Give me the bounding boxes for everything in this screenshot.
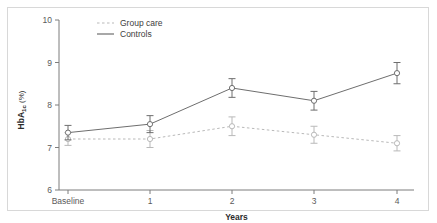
x-axis-title: Years [225, 212, 248, 222]
y-axis-title-main: HbA [16, 112, 26, 129]
y-axis-title-unit: (%) [17, 90, 26, 105]
legend-label: Controls [120, 29, 152, 39]
line-chart: 109876Baseline1234YearsHbA1c (%)Group ca… [0, 0, 437, 223]
series-group-care [65, 117, 401, 151]
y-tick-label: 8 [47, 100, 52, 110]
data-point-marker [229, 124, 234, 129]
x-tick-label: 3 [312, 196, 317, 206]
legend: Group careControls [97, 18, 163, 39]
y-axis-title: HbA1c (%) [16, 90, 27, 129]
data-point-marker [394, 71, 399, 76]
data-point-marker [311, 132, 316, 137]
data-point-marker [147, 136, 152, 141]
y-tick-label: 10 [43, 15, 53, 25]
data-point-marker [229, 85, 234, 90]
x-tick-label: Baseline [52, 196, 85, 206]
y-tick-label: 6 [47, 185, 52, 195]
y-axis-title-text: HbA1c (%) [16, 90, 27, 129]
y-tick-label: 9 [47, 58, 52, 68]
x-tick-label: 2 [230, 196, 235, 206]
x-tick-label: 4 [395, 196, 400, 206]
data-point-marker [147, 122, 152, 127]
figure-root: 109876Baseline1234YearsHbA1c (%)Group ca… [0, 0, 437, 223]
data-point-marker [394, 141, 399, 146]
data-point-marker [311, 98, 316, 103]
y-tick-label: 7 [47, 143, 52, 153]
x-tick-label: 1 [148, 196, 153, 206]
data-point-marker [65, 130, 70, 135]
legend-label: Group care [120, 18, 163, 28]
